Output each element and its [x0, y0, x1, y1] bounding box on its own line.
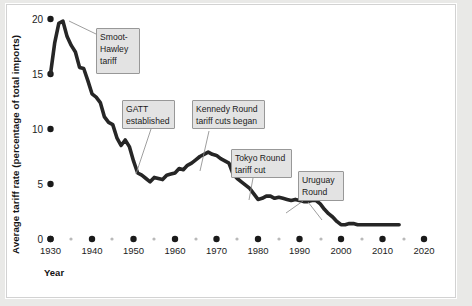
x-minor-tick-1935 [69, 237, 72, 240]
annotation-uruguay-round-line-1: Uruguay [302, 175, 335, 185]
x-tick-label-1960: 1960 [164, 245, 185, 256]
y-tick-label-0: 0 [37, 234, 43, 245]
annotation-smoot-hawley-line-1: Smoot- [100, 32, 128, 42]
x-tick-dot-2020 [421, 236, 427, 242]
annotation-gatt[interactable]: GATT established [123, 101, 175, 129]
annotation-kennedy-round-line-2: tariff cuts began [196, 116, 257, 126]
annotation-tokyo-round[interactable]: Tokyo Round tariff cut [232, 150, 292, 178]
x-tick-label-2020: 2020 [413, 245, 434, 256]
x-tick-label-1990: 1990 [289, 245, 310, 256]
annotation-uruguay-round[interactable]: Uruguay Round [299, 172, 344, 201]
x-tick-dot-1940 [89, 236, 95, 242]
annotation-smoot-hawley-line-2: Hawley [100, 44, 129, 54]
x-axis-minor-ticks [69, 237, 405, 240]
y-tick-label-5: 5 [37, 179, 43, 190]
x-tick-label-2010: 2010 [372, 245, 393, 256]
annotation-tokyo-round-line-2: tariff cut [235, 165, 266, 175]
x-minor-tick-2005 [360, 237, 363, 240]
x-tick-dot-1950 [130, 236, 136, 242]
annotation-tokyo-round-line-1: Tokyo Round [235, 153, 285, 163]
x-axis-title: Year [44, 267, 64, 278]
y-tick-label-10: 10 [32, 124, 44, 135]
y-tick-dot-10 [47, 126, 53, 132]
x-minor-tick-1995 [319, 237, 322, 240]
x-tick-dot-1960 [172, 236, 178, 242]
chart-figure: Average tariff rate (percentage of total… [6, 4, 456, 298]
annotation-smoot-hawley[interactable]: Smoot- Hawley tariff [97, 29, 140, 74]
x-tick-dot-1990 [296, 236, 302, 242]
x-tick-dot-2010 [379, 236, 385, 242]
annotation-kennedy-round[interactable]: Kennedy Round tariff cuts began [193, 101, 265, 129]
x-tick-label-1970: 1970 [206, 245, 227, 256]
x-minor-tick-1975 [235, 237, 238, 240]
x-tick-label-2000: 2000 [330, 245, 351, 256]
y-tick-dot-5 [47, 181, 53, 187]
y-axis-title-text: Average tariff rate (percentage of total… [10, 35, 21, 254]
y-axis-title: Average tariff rate (percentage of total… [10, 35, 21, 254]
y-tick-label-20: 20 [32, 14, 44, 25]
y-tick-dot-20 [47, 16, 53, 22]
x-minor-tick-1955 [152, 237, 155, 240]
x-tick-dot-2000 [338, 236, 344, 242]
x-tick-dot-1970 [213, 236, 219, 242]
tariff-rate-line-chart: Average tariff rate (percentage of total… [6, 4, 456, 298]
x-minor-tick-1945 [110, 237, 113, 240]
leader-smoot-hawley [69, 21, 96, 34]
x-tick-label-1940: 1940 [81, 245, 102, 256]
x-tick-label-1930: 1930 [40, 245, 61, 256]
annotation-gatt-line-1: GATT [126, 104, 149, 114]
x-tick-dot-1980 [255, 236, 261, 242]
x-tick-label-1950: 1950 [123, 245, 144, 256]
annotation-smoot-hawley-line-3: tariff [100, 56, 117, 66]
annotation-uruguay-round-line-2: Round [302, 187, 328, 197]
x-minor-tick-2015 [402, 237, 405, 240]
y-axis-ticks: 20 15 10 5 0 [32, 14, 54, 245]
annotation-kennedy-round-line-1: Kennedy Round [196, 104, 258, 114]
x-tick-dot-1930 [47, 236, 53, 242]
x-tick-label-1980: 1980 [247, 245, 268, 256]
y-tick-label-15: 15 [32, 69, 44, 80]
x-minor-tick-1985 [277, 237, 280, 240]
x-minor-tick-1965 [194, 237, 197, 240]
annotation-gatt-line-2: established [126, 116, 170, 126]
leader-uruguay-round-left [286, 201, 303, 213]
leader-gatt [136, 129, 151, 174]
